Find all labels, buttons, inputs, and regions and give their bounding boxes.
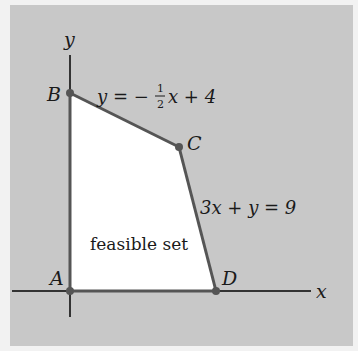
constraint-2-label: 3x + y = 9 xyxy=(200,197,296,218)
feasible-region-diagram: y x B C D A y = − 1 2 x + 4 3x + y = 9 f… xyxy=(0,0,358,351)
y-axis-label: y xyxy=(63,28,75,50)
vertex-c-dot xyxy=(175,143,183,151)
feasible-region xyxy=(70,93,216,291)
constraint-1-frac-den: 2 xyxy=(157,98,164,111)
constraint-1-lhs: y = − xyxy=(96,86,149,107)
vertex-d-dot xyxy=(212,287,220,295)
x-axis-label: x xyxy=(316,280,327,302)
vertex-b-label: B xyxy=(46,83,61,105)
vertex-d-label: D xyxy=(221,267,237,289)
constraint-1-label: y = − 1 2 x + 4 xyxy=(96,82,216,111)
feasible-set-label: feasible set xyxy=(90,234,188,254)
constraint-1-frac-num: 1 xyxy=(157,82,164,95)
vertex-c-label: C xyxy=(187,132,202,154)
vertex-b-dot xyxy=(66,89,74,97)
constraint-1-rhs: x + 4 xyxy=(168,86,216,107)
vertex-a-dot xyxy=(66,287,74,295)
vertex-a-label: A xyxy=(48,267,64,289)
